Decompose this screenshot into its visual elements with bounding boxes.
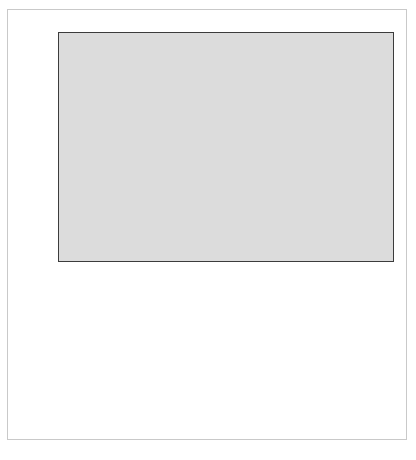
line-series-svg [59,33,393,261]
chart-region [8,10,408,280]
plot-area [58,32,394,262]
figure-card [7,9,407,440]
